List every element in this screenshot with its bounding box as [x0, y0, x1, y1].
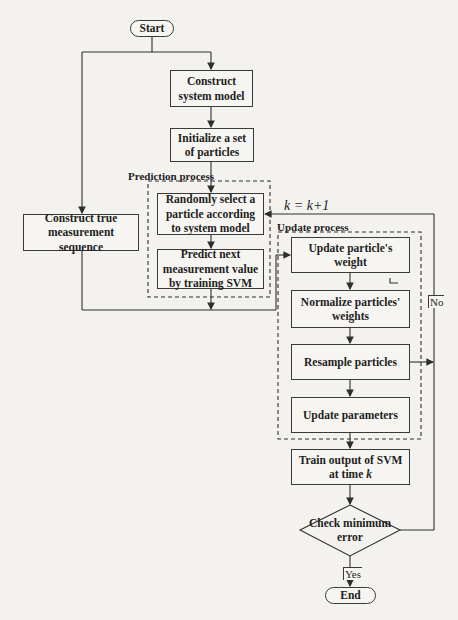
construct-true-measurement-label: Construct true measurement sequence: [27, 211, 135, 254]
normalize-weights-node: Normalize particles' weights: [291, 290, 410, 328]
predict-next-node: Predict next measurement value by traini…: [157, 249, 264, 289]
loop-counter-label: k = k+1: [284, 198, 329, 214]
update-weight-node: Update particle's weight: [291, 237, 410, 273]
no-label: No: [428, 295, 444, 308]
yes-label: Yes: [343, 567, 362, 580]
construct-system-model-label: Construct system model: [174, 74, 249, 103]
predict-next-label: Predict next measurement value by traini…: [161, 247, 260, 290]
update-weight-label: Update particle's weight: [295, 241, 406, 270]
start-node: Start: [130, 20, 174, 37]
prediction-group-label: Prediction process: [128, 170, 214, 182]
flowchart: Start Construct system model Initialize …: [0, 0, 458, 620]
start-label: Start: [140, 21, 165, 35]
initialize-particles-label: Initialize a set of particles: [174, 131, 250, 160]
randomly-select-node: Randomly select a particle according to …: [157, 193, 264, 235]
end-node: End: [325, 587, 376, 604]
update-parameters-node: Update parameters: [291, 397, 410, 433]
resample-node: Resample particles: [291, 344, 410, 380]
update-group-label: Update process: [277, 221, 349, 233]
normalize-weights-label: Normalize particles' weights: [295, 295, 406, 324]
construct-system-model-node: Construct system model: [170, 70, 253, 107]
update-parameters-label: Update parameters: [303, 408, 398, 422]
train-output-label: Train output of SVM at time k: [295, 453, 406, 482]
initialize-particles-node: Initialize a set of particles: [170, 128, 254, 162]
train-output-node: Train output of SVM at time k: [291, 449, 410, 485]
construct-true-measurement-node: Construct true measurement sequence: [23, 214, 139, 251]
check-error-label: Check minimum error: [300, 516, 400, 545]
resample-label: Resample particles: [304, 355, 397, 369]
time-variable: k: [366, 468, 372, 480]
randomly-select-label: Randomly select a particle according to …: [161, 192, 260, 235]
end-label: End: [340, 588, 360, 602]
